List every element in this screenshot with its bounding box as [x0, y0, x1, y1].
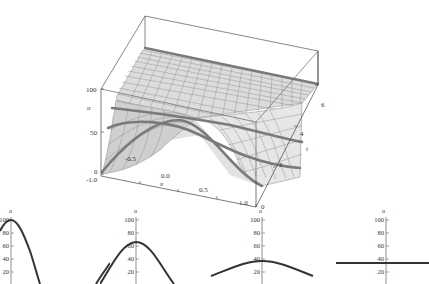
slice-plot-t15: u 100 80 60 40 20 — [205, 205, 325, 284]
u-tick-0: 0 — [94, 168, 98, 176]
curve — [0, 220, 110, 284]
curve — [100, 242, 174, 284]
tick-60: 60 — [254, 242, 261, 249]
x-tick-minus05: -0.5 — [125, 155, 137, 163]
tick-20: 20 — [378, 268, 385, 275]
surface-plot-3d: 100 50 0 u -1.0 -0.5 0.0 0.5 1.0 x 0 2 4… — [0, 0, 429, 210]
tick-80: 80 — [378, 229, 385, 236]
tick-20: 20 — [3, 268, 10, 275]
slice-plot-t05: u 100 80 60 40 20 — [100, 205, 210, 284]
slice-plot-t6: u 100 80 60 40 20 — [320, 205, 429, 284]
t-tick-6: 6 — [321, 101, 325, 109]
y-axis-label: u — [259, 208, 262, 214]
tick-20: 20 — [128, 268, 135, 275]
t-tick-2: 2 — [279, 161, 283, 169]
x-tick-minus1: -1.0 — [86, 176, 98, 184]
tick-100: 100 — [124, 216, 134, 223]
tick-40: 40 — [128, 255, 135, 262]
y-axis-label: u — [134, 208, 137, 214]
tick-80: 80 — [128, 229, 135, 236]
x-tick-05: 0.5 — [199, 186, 208, 194]
tick-100: 100 — [374, 216, 384, 223]
u-axis-label: u — [87, 104, 91, 112]
u-tick-50: 50 — [90, 129, 98, 137]
tick-40: 40 — [3, 255, 10, 262]
y-axis-label: u — [9, 208, 12, 214]
tick-80: 80 — [3, 229, 10, 236]
tick-60: 60 — [3, 242, 10, 249]
u-tick-100: 100 — [86, 86, 97, 94]
x-axis-label: x — [159, 180, 164, 188]
x-tick-0: 0.0 — [161, 172, 170, 180]
tick-20: 20 — [254, 268, 261, 275]
tick-100: 100 — [250, 216, 260, 223]
tick-80: 80 — [254, 229, 261, 236]
slice-plot-t0: u 100 80 60 40 20 — [0, 205, 110, 284]
t-tick-4: 4 — [300, 130, 304, 138]
y-axis-label: u — [382, 208, 385, 214]
surface-mesh — [102, 48, 318, 186]
tick-60: 60 — [378, 242, 385, 249]
u-axis-ticks: 100 50 0 — [86, 86, 98, 176]
t-axis-label: t — [306, 145, 309, 153]
tick-40: 40 — [378, 255, 385, 262]
